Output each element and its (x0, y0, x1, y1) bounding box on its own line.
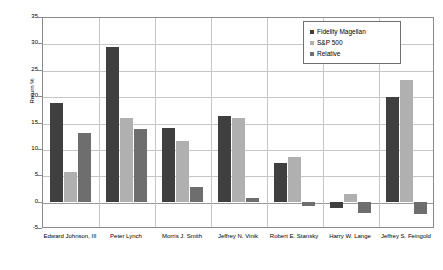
legend-item-sp-500: S&P 500 (310, 37, 395, 48)
bar (190, 187, 203, 202)
bar (246, 198, 259, 201)
legend-item-relative: Relative (310, 48, 395, 59)
y-tick-label: 25 (0, 66, 38, 72)
y-tick-label: 5 (0, 171, 38, 177)
bar (218, 116, 231, 201)
bar (78, 133, 91, 202)
bar (386, 97, 399, 202)
legend-swatch-icon-sp-500 (310, 41, 314, 45)
bar (288, 157, 301, 202)
bar (50, 103, 63, 202)
x-tick-label: Morris J. Smith (154, 233, 210, 241)
bar (330, 202, 343, 208)
y-tick-label: 20 (0, 92, 38, 98)
bar (120, 118, 133, 201)
x-tick-label: Peter Lynch (98, 233, 154, 241)
bar (106, 47, 119, 202)
x-tick-label: Robert E. Stansky (266, 233, 322, 241)
bar (358, 202, 371, 214)
legend-swatch-icon-fidelity-magellan (310, 30, 314, 34)
x-tick-label: Jeffrey S. Feingold (378, 233, 434, 241)
bar-chart: Return % 35302520151050-5 Edward Johnson… (0, 0, 443, 270)
bar (162, 128, 175, 202)
y-tick-label: -5 (0, 224, 38, 230)
y-tick-label: 10 (0, 145, 38, 151)
y-tick-label: 30 (0, 39, 38, 45)
legend-label-relative: Relative (317, 50, 340, 57)
x-tick-label: Edward Johnson, III (42, 233, 98, 241)
bar (176, 141, 189, 201)
bar (64, 172, 77, 202)
legend-item-fidelity-magellan: Fidelity Magellan (310, 26, 395, 37)
legend: Fidelity Magellan S&P 500 Relative (303, 21, 401, 64)
bar (232, 118, 245, 201)
x-tick-label: Jeffrey N. Vinik (210, 233, 266, 241)
y-tick-label: 0 (0, 198, 38, 204)
y-tick-mark (38, 228, 42, 229)
legend-label-sp-500: S&P 500 (317, 39, 343, 46)
bar (274, 163, 287, 202)
y-tick-label: 15 (0, 119, 38, 125)
x-tick-label: Harry W. Lange (322, 233, 378, 241)
legend-label-fidelity-magellan: Fidelity Magellan (317, 28, 366, 35)
legend-swatch-icon-relative (310, 52, 314, 56)
y-tick-label: 35 (0, 13, 38, 19)
bar (414, 202, 427, 215)
bar (344, 194, 357, 202)
bar (400, 80, 413, 201)
bar (134, 129, 147, 201)
bar (302, 202, 315, 206)
